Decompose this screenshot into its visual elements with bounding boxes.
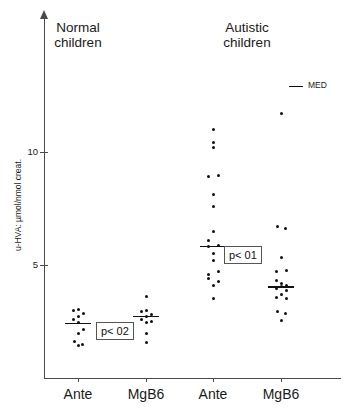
data-point bbox=[72, 318, 75, 321]
data-point bbox=[212, 252, 215, 255]
data-point bbox=[145, 341, 148, 344]
x-axis-label-normal-ante: Ante bbox=[43, 386, 113, 402]
data-point bbox=[217, 280, 220, 283]
legend-median-marker bbox=[289, 86, 303, 87]
data-point bbox=[77, 332, 80, 335]
data-point bbox=[212, 230, 215, 233]
data-point bbox=[145, 295, 148, 298]
data-point bbox=[212, 259, 215, 262]
median-bar bbox=[200, 246, 226, 247]
data-point bbox=[81, 343, 84, 346]
x-tick-mark-autistic-ante bbox=[213, 378, 214, 382]
scatter-plot-figure: u-HVA: µmol/nmol creat. 10 5 Normal chil… bbox=[0, 0, 345, 413]
data-point bbox=[212, 205, 215, 208]
data-point bbox=[212, 193, 215, 196]
x-tick-mark-normal-ante bbox=[78, 378, 79, 382]
y-tick-label-10: 10 bbox=[16, 146, 38, 157]
median-bar bbox=[65, 323, 91, 324]
data-point bbox=[77, 308, 80, 311]
data-point bbox=[212, 146, 215, 149]
y-axis-line bbox=[44, 18, 45, 378]
data-point bbox=[207, 277, 210, 280]
x-axis-label-autistic-ante: Ante bbox=[178, 386, 248, 402]
group-title-autistic: Autistic children bbox=[187, 20, 307, 50]
data-point bbox=[140, 318, 143, 321]
x-axis-label-normal-mgb6: MgB6 bbox=[111, 386, 181, 402]
data-point bbox=[280, 112, 283, 115]
data-point bbox=[77, 315, 80, 318]
data-point bbox=[285, 269, 288, 272]
data-point bbox=[77, 344, 80, 347]
data-point bbox=[82, 312, 85, 315]
group-title-autistic-line2: children bbox=[223, 35, 270, 50]
data-point bbox=[276, 225, 279, 228]
data-point bbox=[217, 270, 220, 273]
data-point bbox=[212, 141, 215, 144]
data-point bbox=[82, 328, 85, 331]
data-point bbox=[73, 340, 76, 343]
data-point bbox=[207, 273, 210, 276]
data-point bbox=[145, 309, 148, 312]
group-title-autistic-line1: Autistic bbox=[225, 20, 269, 35]
group-title-normal-line1: Normal bbox=[56, 20, 100, 35]
data-point bbox=[207, 239, 210, 242]
data-point bbox=[275, 270, 278, 273]
data-point bbox=[150, 320, 153, 323]
data-point bbox=[72, 309, 75, 312]
data-point bbox=[280, 319, 283, 322]
x-tick-mark-autistic-mgb6 bbox=[281, 378, 282, 382]
pvalue-box-normal: p< 02 bbox=[96, 322, 134, 340]
data-point bbox=[276, 310, 279, 313]
pvalue-box-autistic: p< 01 bbox=[224, 246, 262, 264]
data-point bbox=[145, 332, 148, 335]
y-tick-label-5: 5 bbox=[16, 259, 38, 270]
data-point bbox=[280, 256, 283, 259]
x-axis-label-autistic-mgb6: MgB6 bbox=[246, 386, 316, 402]
y-tick-mark-5 bbox=[40, 265, 48, 266]
x-axis-line bbox=[44, 378, 341, 379]
median-bar bbox=[133, 316, 159, 317]
data-point bbox=[285, 297, 288, 300]
data-point bbox=[212, 284, 215, 287]
group-title-normal-line2: children bbox=[54, 35, 101, 50]
data-point bbox=[275, 296, 278, 299]
data-point bbox=[212, 297, 215, 300]
x-tick-mark-normal-mgb6 bbox=[146, 378, 147, 382]
data-point bbox=[212, 128, 215, 131]
median-bar bbox=[268, 286, 294, 287]
data-point bbox=[140, 310, 143, 313]
y-tick-mark-10 bbox=[40, 152, 48, 153]
data-point bbox=[284, 312, 287, 315]
legend-label-med: MED bbox=[308, 80, 327, 90]
data-point bbox=[275, 279, 278, 282]
data-point bbox=[284, 227, 287, 230]
group-title-normal: Normal children bbox=[18, 20, 138, 50]
data-point bbox=[145, 321, 148, 324]
data-point bbox=[217, 174, 220, 177]
data-point bbox=[280, 293, 283, 296]
data-point bbox=[207, 175, 210, 178]
data-point bbox=[285, 289, 288, 292]
